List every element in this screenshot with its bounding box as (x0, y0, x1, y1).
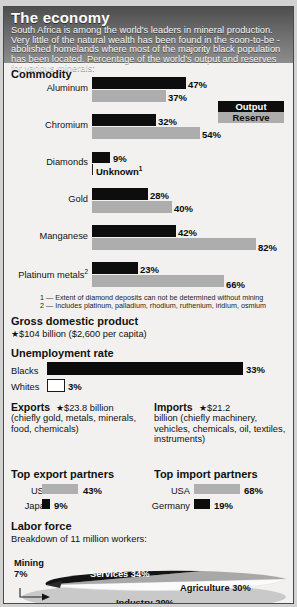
value-reserve-platinum: 66% (226, 279, 245, 290)
labor-pie-svg (4, 555, 293, 604)
unemployment-label-whites: Whites (11, 382, 39, 392)
import-partner-label-germany: Germany (148, 501, 190, 511)
gdp-value: ★$104 billion ($2,600 per capita) (11, 328, 147, 339)
value-import-partner-usa: 68% (244, 485, 263, 496)
value-reserve-aluminum: 37% (168, 92, 187, 103)
commodity-heading: Commodity (11, 68, 72, 80)
pie-value-mining: 7% (14, 569, 27, 579)
value-export-partner-usa: 43% (83, 485, 102, 496)
bar-import-partner-usa (194, 484, 240, 494)
pie-label-mining: Mining (14, 558, 44, 568)
header-description: South Africa is among the world's leader… (11, 26, 289, 74)
footnote-marker-2: 2 (84, 268, 88, 275)
value-export-partner-japan: 9% (54, 500, 68, 511)
commodity-label-platinum: Platinum metals2 (4, 268, 88, 280)
commodity-label-gold: Gold (4, 194, 88, 204)
bar-output-platinum (92, 262, 138, 274)
infographic-page: The economy South Africa is among the wo… (0, 0, 297, 607)
value-unemployment-blacks: 33% (246, 364, 265, 375)
infographic-card: The economy South Africa is among the wo… (3, 6, 294, 604)
bar-reserve-chromium (92, 127, 200, 139)
commodity-label-chromium: Chromium (4, 120, 88, 130)
bar-reserve-gold (92, 201, 172, 213)
exports-title: Exports (11, 401, 50, 413)
tick-diamonds-unknown (92, 164, 93, 175)
value-import-partner-germany: 19% (214, 500, 233, 511)
page-title: The economy (11, 9, 110, 26)
bar-unemployment-whites (47, 379, 65, 392)
imports-amount: ★$21.2 (199, 402, 230, 413)
bar-export-partner-japan (42, 499, 50, 509)
pie-label-agriculture: Agriculture 30% (180, 583, 251, 593)
value-output-platinum: 23% (140, 264, 159, 275)
bar-import-partner-germany (194, 499, 210, 509)
legend-reserve: Reserve (218, 112, 284, 123)
value-output-manganese: 42% (178, 227, 197, 238)
footnote-marker-1: 1 (139, 165, 143, 172)
commodity-label-diamonds: Diamonds (4, 157, 88, 167)
bar-output-diamonds (92, 152, 110, 163)
value-reserve-manganese: 82% (258, 242, 277, 253)
bar-unemployment-blacks (47, 362, 243, 375)
unemployment-title: Unemployment rate (11, 347, 114, 359)
bar-reserve-aluminum (92, 90, 166, 102)
gdp-title: Gross domestic product (11, 315, 138, 327)
value-reserve-diamonds: Unknown1 (96, 165, 142, 177)
commodity-label-aluminum: Aluminum (4, 83, 88, 93)
bar-reserve-platinum (92, 275, 224, 287)
imports-detail: billion (chiefly machinery, vehicles, ch… (154, 413, 292, 445)
labor-subtitle: Breakdown of 11 million workers: (11, 534, 147, 544)
labor-pie-chart: Mining 7% Services 34% Agriculture 30% I… (4, 555, 293, 604)
bar-export-partner-usa (42, 484, 78, 494)
value-output-diamonds: 9% (113, 153, 127, 164)
header-band: The economy South Africa is among the wo… (4, 7, 293, 63)
imports-title: Imports (154, 401, 193, 413)
labor-title: Labor force (11, 520, 72, 532)
pie-label-industry: Industry 29% (116, 598, 174, 604)
exports-detail: (chiefly gold, metals, minerals, food, c… (11, 413, 141, 434)
value-output-chromium: 32% (158, 116, 177, 127)
commodity-label-manganese: Manganese (4, 231, 88, 241)
value-unemployment-whites: 3% (68, 381, 82, 392)
unemployment-label-blacks: Blacks (11, 366, 38, 376)
value-output-aluminum: 47% (188, 79, 207, 90)
bar-output-chromium (92, 114, 156, 126)
export-partners-title: Top export partners (11, 468, 114, 480)
value-reserve-chromium: 54% (202, 129, 221, 140)
legend-output: Output (218, 101, 284, 112)
value-output-gold: 28% (150, 190, 169, 201)
bar-output-gold (92, 188, 148, 200)
import-partner-label-usa: USA (154, 486, 190, 496)
import-partners-title: Top import partners (154, 468, 258, 480)
value-reserve-gold: 40% (174, 203, 193, 214)
bar-output-manganese (92, 225, 176, 237)
footnote-2: 2 — Includes platinum, palladium, rhodiu… (40, 302, 266, 310)
exports-amount: ★$23.8 billion (56, 402, 114, 413)
commodity-legend: Output Reserve (218, 101, 284, 123)
bar-reserve-manganese (92, 238, 256, 250)
pie-label-services: Services 34% (90, 569, 149, 579)
bar-output-aluminum (92, 77, 186, 89)
